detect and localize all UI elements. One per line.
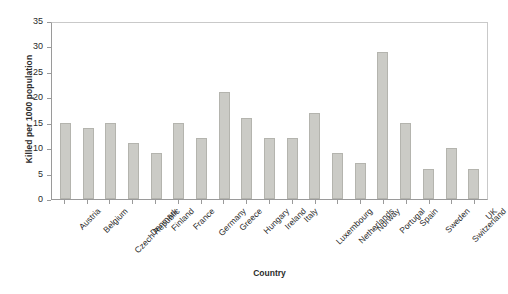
bar-slot (145, 23, 168, 199)
bar-slot (440, 23, 463, 199)
bar (309, 113, 320, 199)
bar-slot (99, 23, 122, 199)
bar (287, 138, 298, 199)
bar-slot (304, 23, 327, 199)
bar (332, 153, 343, 199)
bar (446, 148, 457, 199)
x-axis-category-labels: AustriaBelgiumCzech RepublicDenmarkFinla… (51, 204, 488, 262)
y-axis-tick-label: 15 (33, 118, 43, 129)
x-axis-category-label: Belgium (101, 206, 130, 235)
bar (400, 123, 411, 199)
bar (377, 52, 388, 199)
x-axis-category-label: Sweden (443, 206, 472, 235)
bar-slot (236, 23, 259, 199)
bar-slot (394, 23, 417, 199)
bar (241, 118, 252, 199)
y-axis-tick-label: 25 (33, 67, 43, 78)
bar (423, 169, 434, 200)
bar-slot (281, 23, 304, 199)
bar (105, 123, 116, 199)
bar-slot (77, 23, 100, 199)
bar (151, 153, 162, 199)
bars-layer (52, 23, 487, 199)
y-axis-tick-label: 10 (33, 143, 43, 154)
bar (60, 123, 71, 199)
bar-slot (462, 23, 485, 199)
bar (219, 92, 230, 199)
bar-slot (349, 23, 372, 199)
y-axis-tick-label: 30 (33, 41, 43, 52)
bar-slot (213, 23, 236, 199)
bar (128, 143, 139, 199)
y-axis-tick-label: 35 (33, 16, 43, 27)
bar-slot (326, 23, 349, 199)
y-axis-tick-label: 20 (33, 92, 43, 103)
y-axis-tick-label: 0 (38, 194, 43, 205)
y-axis: 05101520253035 (0, 22, 51, 200)
x-axis-title: Country (51, 268, 488, 278)
bar (264, 138, 275, 199)
bar-slot (417, 23, 440, 199)
bar-slot (167, 23, 190, 199)
bar-slot (122, 23, 145, 199)
bar-slot (190, 23, 213, 199)
x-axis-category-label: France (191, 206, 217, 232)
bar (196, 138, 207, 199)
x-axis-category-label: Austria (77, 206, 103, 232)
bar-slot (54, 23, 77, 199)
bar-slot (258, 23, 281, 199)
bar (173, 123, 184, 199)
bar (468, 169, 479, 200)
y-axis-tick-label: 5 (38, 169, 43, 180)
bar (355, 163, 366, 199)
bar (83, 128, 94, 199)
bar-slot (372, 23, 395, 199)
plot-area (51, 22, 488, 200)
